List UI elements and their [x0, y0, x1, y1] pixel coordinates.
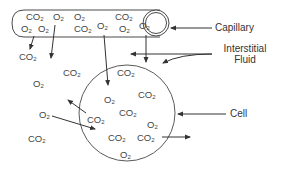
- o2-molecule-cell: O2: [120, 150, 131, 160]
- o2-molecule-capillary: O2: [53, 12, 64, 22]
- interstitial-pointer-arrow-curved: [163, 54, 212, 63]
- interstitial-label-line2: Fluid: [214, 55, 276, 65]
- co2-molecule-interstitial: CO2: [19, 52, 37, 62]
- co2-molecule-interstitial: CO2: [63, 68, 81, 78]
- label-pointers: [131, 28, 226, 114]
- o2-molecule-cell: O2: [147, 120, 158, 130]
- capillary-label: Capillary: [215, 23, 254, 33]
- o2-molecule-interstitial: O2: [39, 110, 50, 120]
- diffusion-arrows: [30, 25, 190, 137]
- co2-out-cell-arrow: [68, 100, 86, 113]
- o2-molecule-cell: O2: [104, 95, 115, 105]
- cell-label: Cell: [230, 109, 247, 119]
- co2-molecule-cell: CO2: [119, 108, 137, 118]
- co2-molecule-cell: CO2: [137, 133, 155, 143]
- co2-molecule-capillary: CO2: [74, 24, 92, 34]
- co2-molecule-cell: CO2: [108, 133, 126, 143]
- o2-molecule-capillary: O2: [74, 12, 85, 22]
- o2-molecule-capillary: O2: [97, 21, 108, 31]
- o2-molecule-capillary: O2: [139, 21, 150, 31]
- o2-into-cell-arrow: [104, 35, 108, 85]
- co2-into-capillary-arrow: [30, 36, 34, 49]
- o2-out-capillary-arrow: [51, 25, 55, 58]
- co2-molecule-capillary: CO2: [115, 12, 133, 22]
- o2-molecule-interstitial: O2: [33, 79, 44, 89]
- interstitial-fluid-label: Interstitial Fluid: [214, 44, 276, 65]
- co2-molecule-cell: CO2: [138, 90, 156, 100]
- interstitial-label-line1: Interstitial: [214, 44, 276, 54]
- co2-molecule-cell: CO2: [87, 115, 105, 125]
- co2-molecule-capillary: CO2: [26, 12, 44, 22]
- co2-molecule-cell: CO2: [117, 68, 135, 78]
- o2-molecule-capillary: O2: [119, 24, 130, 34]
- o2-molecule-capillary: O2: [21, 24, 32, 34]
- co2-molecule-interstitial: CO2: [28, 134, 46, 144]
- o2-molecule-capillary: O2: [38, 24, 49, 34]
